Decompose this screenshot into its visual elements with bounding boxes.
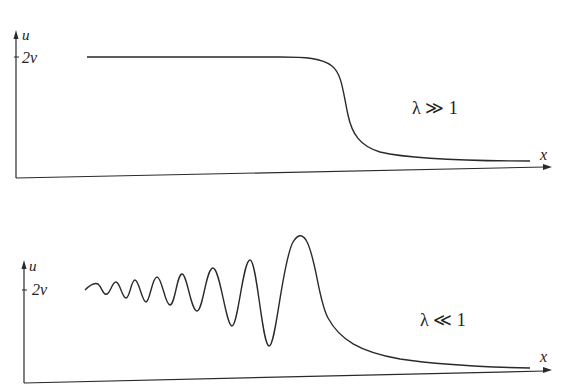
top-x-label: x: [539, 146, 547, 163]
top-x-axis: [16, 167, 545, 178]
top-x-arrow-icon: [543, 164, 552, 170]
bottom-tick-label: 2v: [32, 281, 48, 298]
top-y-arrow-icon: [14, 30, 19, 39]
top-y-label: u: [22, 27, 30, 43]
bottom-x-label: x: [539, 348, 547, 365]
top-panel: u 2v x λ ≫ 1: [14, 27, 553, 178]
bottom-condition-label: λ ≪ 1: [420, 310, 466, 330]
bottom-y-arrow-icon: [22, 260, 27, 269]
bottom-y-label: u: [29, 258, 37, 274]
bottom-x-arrow-icon: [543, 367, 552, 373]
bottom-panel: u 2v x λ ≪ 1: [22, 236, 553, 383]
figure: u 2v x λ ≫ 1 u 2v x λ ≪ 1: [0, 0, 574, 390]
top-curve: [87, 57, 530, 161]
bottom-x-axis: [24, 371, 545, 383]
top-condition-label: λ ≫ 1: [412, 98, 458, 118]
top-tick-label: 2v: [22, 49, 38, 66]
bottom-curve: [85, 236, 530, 368]
